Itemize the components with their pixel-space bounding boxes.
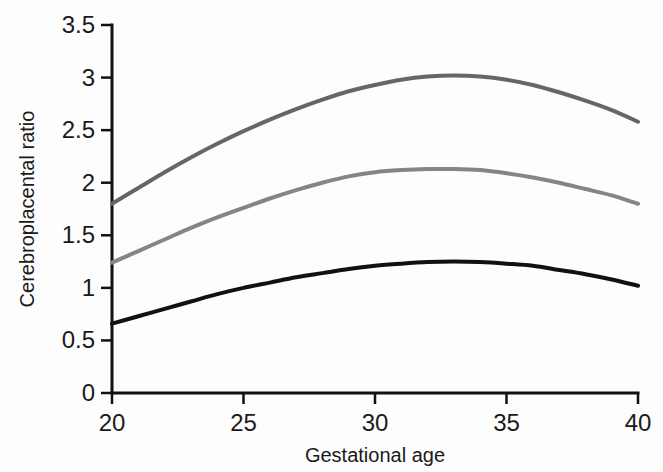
y-tick-label: 2.5 bbox=[62, 116, 95, 143]
y-tick-label: 1 bbox=[82, 274, 95, 301]
y-tick-label: 1.5 bbox=[62, 221, 95, 248]
x-tick-label: 20 bbox=[99, 409, 126, 436]
chart-container: 00.511.522.533.5 2025303540 Gestational … bbox=[0, 0, 663, 472]
x-tick-label: 40 bbox=[625, 409, 652, 436]
data-series-group bbox=[112, 75, 638, 323]
y-axis-title: Cerebroplacental ratio bbox=[16, 111, 38, 308]
x-tick-label: 35 bbox=[493, 409, 520, 436]
y-tick-label: 0 bbox=[82, 379, 95, 406]
y-tick-label: 3.5 bbox=[62, 11, 95, 38]
y-tick-label: 3 bbox=[82, 64, 95, 91]
y-tick-label: 2 bbox=[82, 169, 95, 196]
line-chart: 00.511.522.533.5 2025303540 Gestational … bbox=[0, 0, 663, 472]
series-line-2 bbox=[112, 262, 638, 324]
x-tick-label: 25 bbox=[230, 409, 257, 436]
x-tick-label: 30 bbox=[362, 409, 389, 436]
x-axis-ticks bbox=[112, 393, 638, 404]
y-axis-tick-labels: 00.511.522.533.5 bbox=[62, 11, 95, 406]
y-axis-ticks bbox=[101, 25, 112, 393]
y-tick-label: 0.5 bbox=[62, 326, 95, 353]
x-axis-title: Gestational age bbox=[305, 444, 445, 466]
series-line-1 bbox=[112, 169, 638, 263]
x-axis-tick-labels: 2025303540 bbox=[99, 409, 652, 436]
